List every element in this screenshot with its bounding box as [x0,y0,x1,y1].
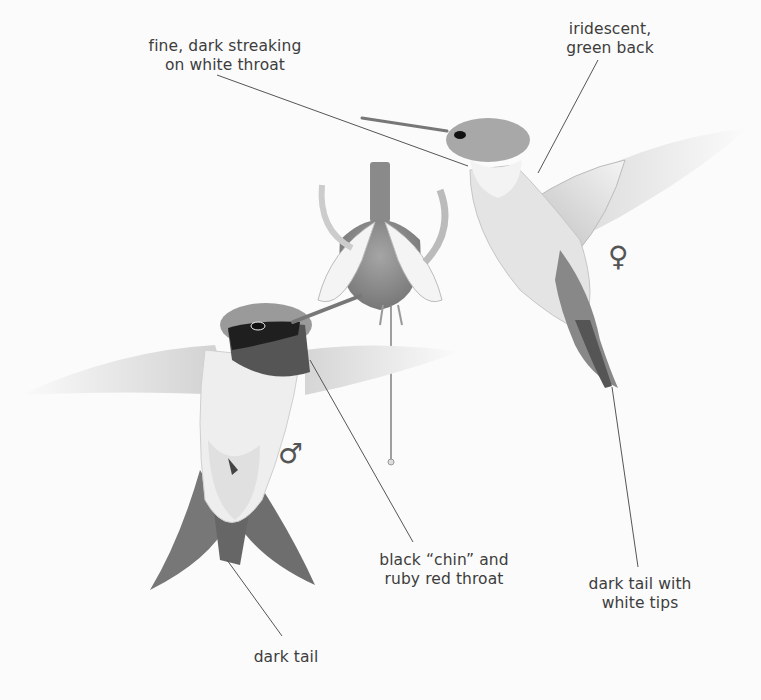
leader-tail-white [612,387,638,567]
label-iridescent-green-back: iridescent, green back [555,20,665,58]
label-line: white tips [555,594,725,613]
label-line: dark tail [236,648,336,667]
label-line: green back [555,39,665,58]
label-line: dark tail with [555,575,725,594]
leader-chin [310,360,413,542]
label-fine-dark-streaking: fine, dark streaking on white throat [125,37,325,75]
label-dark-tail-white-tips: dark tail with white tips [555,575,725,613]
leader-back [538,60,598,173]
label-line: fine, dark streaking [125,37,325,56]
label-line: black “chin” and [364,551,524,570]
male-hummingbird [20,296,460,590]
label-black-chin-ruby-throat: black “chin” and ruby red throat [364,551,524,589]
label-line: iridescent, [555,20,665,39]
label-dark-tail: dark tail [236,648,336,667]
leader-tail [227,560,282,636]
label-line: on white throat [125,56,325,75]
leader-streaking [217,75,468,166]
fuchsia-flower [318,162,445,465]
male-symbol-icon: ♂ [278,440,303,468]
label-line: ruby red throat [364,570,524,589]
female-symbol-icon: ♀ [608,243,629,271]
